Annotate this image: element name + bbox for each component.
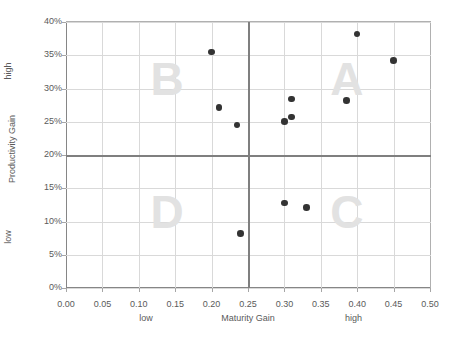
x-tick-mark	[175, 288, 176, 292]
y-tick-label: 10%	[32, 217, 62, 226]
quadrant-label-d: D	[150, 189, 183, 235]
y-tick-label: 0%	[32, 283, 62, 292]
y-tick-label: 40%	[32, 17, 62, 26]
x-tick: 0.10	[119, 293, 159, 304]
scatter-chart: ABCD0%5%10%15%20%25%30%35%40%0.000.050.1…	[0, 0, 455, 342]
x-tick-label: 0.00	[57, 299, 75, 309]
quadrant-label-b: B	[150, 56, 183, 102]
y-tick-mark	[62, 188, 66, 189]
data-point	[237, 230, 244, 237]
y-tick: 25%	[28, 117, 62, 126]
x-tick: 0.00	[46, 293, 86, 304]
x-tick-mark	[284, 288, 285, 292]
quadrant-label-a: A	[330, 56, 363, 102]
x-tick-label: 0.15	[166, 299, 184, 309]
x-tick-label: 0.50	[421, 299, 439, 309]
x-tick: 0.40	[337, 293, 377, 304]
y-tick-label: 25%	[32, 117, 62, 126]
data-point	[343, 97, 350, 104]
y-tick: 0%	[28, 283, 62, 292]
y-axis-low-label: low	[3, 207, 13, 267]
x-tick-mark	[357, 288, 358, 292]
data-point	[208, 49, 215, 56]
y-tick-label: 20%	[32, 150, 62, 159]
y-tick-mark	[62, 155, 66, 156]
x-tick: 0.45	[374, 293, 414, 304]
y-tick-label: 35%	[32, 50, 62, 59]
x-tick-label: 0.10	[130, 299, 148, 309]
x-tick-label: 0.20	[203, 299, 221, 309]
data-point	[303, 204, 310, 211]
x-tick: 0.30	[264, 293, 304, 304]
x-tick: 0.05	[82, 293, 122, 304]
y-tick-mark	[62, 22, 66, 23]
x-tick-mark	[430, 288, 431, 292]
x-tick-mark	[102, 288, 103, 292]
y-tick: 20%	[28, 150, 62, 159]
x-tick: 0.20	[192, 293, 232, 304]
y-tick-label: 5%	[32, 250, 62, 259]
y-tick: 5%	[28, 250, 62, 259]
x-tick-label: 0.40	[348, 299, 366, 309]
y-axis-title: Productivity Gain	[7, 99, 17, 199]
x-tick: 0.15	[155, 293, 195, 304]
x-tick-mark	[248, 288, 249, 292]
y-tick-label: 15%	[32, 183, 62, 192]
y-tick: 15%	[28, 183, 62, 192]
x-tick-label: 0.45	[385, 299, 403, 309]
x-tick-mark	[321, 288, 322, 292]
x-tick-label: 0.05	[94, 299, 112, 309]
x-tick-mark	[139, 288, 140, 292]
y-tick: 35%	[28, 50, 62, 59]
x-tick-mark	[66, 288, 67, 292]
x-tick-label: 0.30	[276, 299, 294, 309]
y-tick-mark	[62, 89, 66, 90]
x-axis-high-label: high	[294, 313, 414, 323]
quadrant-label-c: C	[330, 189, 363, 235]
y-tick: 30%	[28, 84, 62, 93]
y-tick-label: 30%	[32, 84, 62, 93]
y-tick-mark	[62, 122, 66, 123]
x-tick: 0.25	[228, 293, 268, 304]
x-tick-label: 0.25	[239, 299, 257, 309]
x-tick-mark	[212, 288, 213, 292]
data-point	[281, 118, 288, 125]
x-tick-mark	[394, 288, 395, 292]
data-point	[281, 200, 288, 207]
x-tick-label: 0.35	[312, 299, 330, 309]
x-tick: 0.50	[410, 293, 450, 304]
y-axis-high-label: high	[3, 41, 13, 101]
y-tick-mark	[62, 222, 66, 223]
y-tick-mark	[62, 55, 66, 56]
data-point	[390, 57, 397, 64]
quadrant-divider-vertical	[248, 22, 250, 288]
x-axis-low-label: low	[86, 313, 206, 323]
y-tick: 40%	[28, 17, 62, 26]
y-tick: 10%	[28, 217, 62, 226]
x-tick: 0.35	[301, 293, 341, 304]
y-tick-mark	[62, 255, 66, 256]
